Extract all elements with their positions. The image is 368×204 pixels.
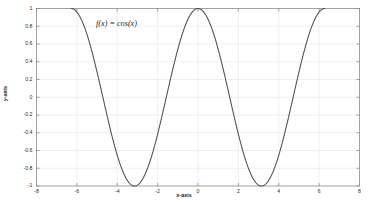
x-axis-title: x-axis <box>0 193 368 198</box>
y-tick-label: 0.6 <box>0 41 33 46</box>
y-axis-title: y-axis <box>3 74 8 114</box>
y-tick-label: 0.4 <box>0 59 33 64</box>
figure-canvas: 10.80.60.40.20-0.2-0.4-0.6-0.8-1 -8-6-4-… <box>0 0 368 204</box>
plot-area <box>0 0 368 204</box>
y-tick-label: 0.8 <box>0 24 33 29</box>
y-tick-label: 1 <box>0 6 33 11</box>
gridlines-group <box>37 9 360 187</box>
y-tick-label: -0.8 <box>0 166 33 171</box>
y-tick-label: -0.4 <box>0 130 33 135</box>
y-tick-label: -0.6 <box>0 148 33 153</box>
curve-equation-annotation: f(x) = cos(x) <box>96 20 137 28</box>
